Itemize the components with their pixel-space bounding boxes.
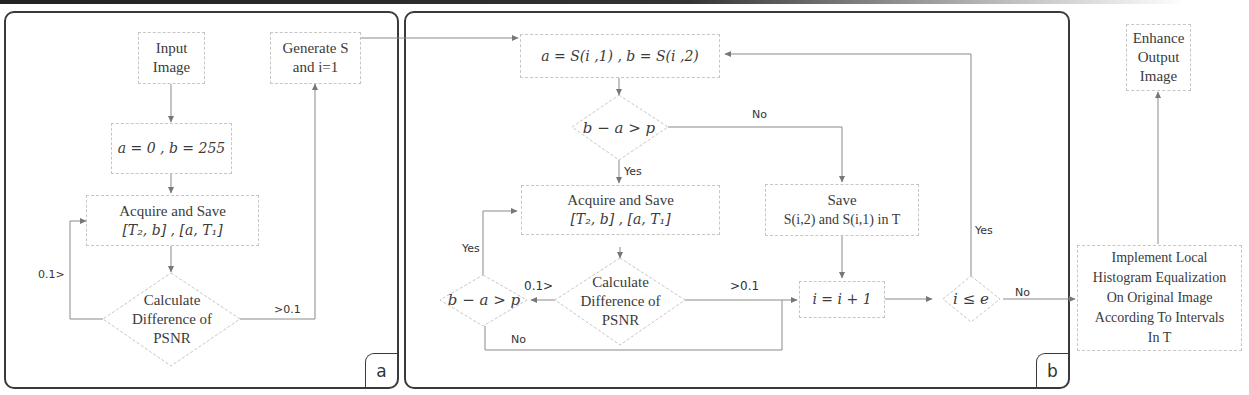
calc-psnr-b-line2: Difference of (580, 292, 660, 311)
check-i-label: i ≤ e (946, 289, 996, 309)
enhance-line2: Output (1138, 48, 1180, 67)
edge-label-b-no-top: No (752, 108, 767, 121)
implement-line5: In T (1148, 328, 1171, 348)
calc-psnr-a-line1: Calculate (144, 291, 201, 310)
save-t-box: Save S(i,2) and S(i,1) in T (765, 184, 919, 236)
implement-lhe-box: Implement Local Histogram Equalization O… (1077, 245, 1242, 351)
implement-line2: Histogram Equalization (1093, 268, 1226, 288)
generate-s-box: Generate S and i=1 (270, 32, 361, 84)
acquire-save-box-a: Acquire and Save [T₂, b] , [a, T₁] (86, 195, 259, 246)
generate-s-line1: Generate S (282, 39, 348, 58)
assign-ab-text: a = S(i ,1) , b = S(i ,2) (541, 47, 699, 66)
save-t-line2: S(i,2) and S(i,1) in T (784, 210, 900, 229)
check-width-text: b − a > p (583, 119, 655, 138)
implement-line4: According To Intervals (1095, 308, 1224, 328)
calc-psnr-a-line3: PSNR (153, 329, 191, 348)
save-t-line1: Save (827, 191, 856, 210)
check-i-text: i ≤ e (953, 290, 989, 309)
init-ab-text: a = 0 , b = 255 (118, 139, 226, 158)
acquire-save-a-line1: Acquire and Save (119, 202, 226, 221)
enhance-output-box: Enhance Output Image (1126, 24, 1191, 91)
calc-psnr-a-line2: Difference of (132, 310, 212, 329)
acquire-save-box-b: Acquire and Save [T₂, b] , [a, T₁] (521, 185, 720, 235)
edge-label-b-yes-left: Yes (462, 242, 480, 255)
calc-psnr-b-line1: Calculate (592, 273, 649, 292)
edge-label-b-no-bottom: No (511, 333, 526, 346)
assign-ab-box: a = S(i ,1) , b = S(i ,2) (520, 34, 720, 78)
implement-line3: On Original Image (1107, 288, 1213, 308)
check-width-2-text: b − a > p (448, 291, 520, 310)
edge-label-a-forward: >0.1 (274, 303, 301, 316)
calc-psnr-a-label: Calculate Difference of PSNR (113, 290, 231, 348)
implement-line1: Implement Local (1111, 248, 1207, 268)
init-ab-box: a = 0 , b = 255 (111, 123, 232, 174)
calc-psnr-b-label: Calculate Difference of PSNR (563, 272, 678, 330)
check-width-label: b − a > p (580, 118, 658, 138)
input-image-box: Input Image (138, 32, 205, 84)
calc-psnr-b-line3: PSNR (602, 311, 640, 330)
increment-text: i = i + 1 (812, 290, 871, 309)
edge-label-a-loop: 0.1> (38, 268, 65, 281)
acquire-save-a-line2: [T₂, b] , [a, T₁] (122, 221, 222, 240)
edge-label-b-gt: >0.1 (730, 279, 759, 293)
edge-label-b-yes-down: Yes (624, 165, 642, 178)
acquire-save-b-line2: [T₂, b] , [a, T₁] (570, 210, 670, 229)
enhance-line1: Enhance (1133, 29, 1185, 48)
edge-label-b-lt: 0.1> (524, 279, 553, 293)
input-image-line2: Image (153, 58, 190, 77)
edge-label-b-no-exit: No (1015, 286, 1030, 299)
increment-box: i = i + 1 (799, 281, 885, 318)
edge-label-b-yes-loop: Yes (975, 224, 993, 237)
check-width-2-label: b − a > p (446, 290, 522, 310)
input-image-line1: Input (156, 39, 188, 58)
enhance-line3: Image (1140, 67, 1177, 86)
generate-s-line2: and i=1 (293, 58, 339, 77)
acquire-save-b-line1: Acquire and Save (567, 191, 674, 210)
